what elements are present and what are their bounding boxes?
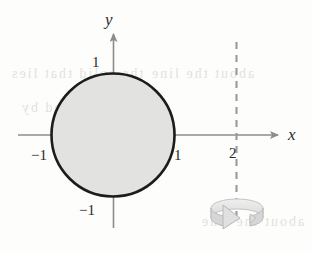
graph-svg [0,0,312,253]
tick-label-x-right: 1 [174,148,182,163]
tick-label-y-bottom: −1 [79,203,95,218]
tick-label-y-top: 1 [92,55,100,70]
x-axis-label: x [288,126,296,143]
tick-label-x-left: −1 [31,148,47,163]
tick-label-axis-of-rotation: 2 [229,146,237,161]
unit-circle-region [52,74,175,197]
figure-container: the solid that lies about the line regio… [0,0,312,253]
y-axis-label: y [105,11,113,28]
